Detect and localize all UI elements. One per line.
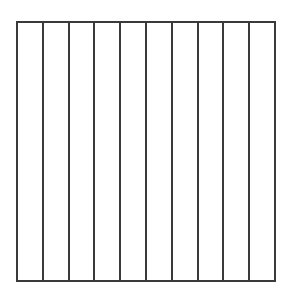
strip-8 — [199, 23, 225, 280]
strip-2 — [44, 23, 70, 280]
strip-9 — [224, 23, 250, 280]
strip-5 — [121, 23, 147, 280]
strip-3 — [70, 23, 96, 280]
strip-4 — [95, 23, 121, 280]
strip-10 — [250, 23, 274, 280]
strip-7 — [173, 23, 199, 280]
strip-1 — [18, 23, 44, 280]
tenths-square — [16, 21, 276, 282]
strip-6 — [147, 23, 173, 280]
